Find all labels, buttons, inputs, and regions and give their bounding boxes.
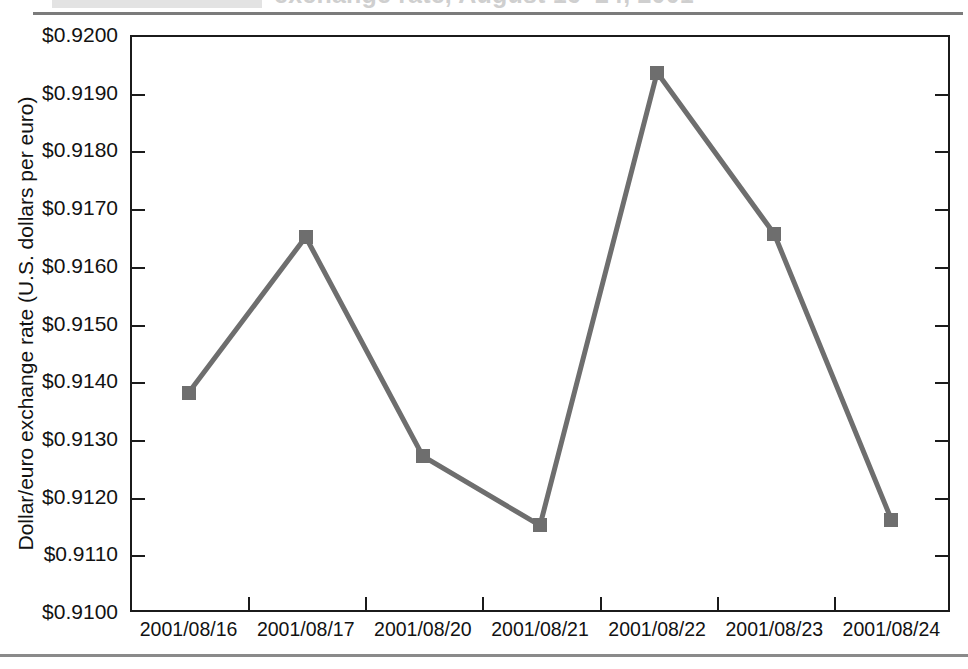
chart-page: exchange rate, August 16–24, 2001 Dollar… [0, 0, 968, 669]
y-axis-tick-labels: $0.9200$0.9190$0.9180$0.9170$0.9160$0.91… [0, 35, 124, 612]
rule-bottom [0, 654, 968, 657]
y-axis-tick-label: $0.9170 [42, 196, 118, 220]
y-axis-tick-label: $0.9150 [42, 312, 118, 336]
x-axis-tick-label: 2001/08/21 [491, 618, 589, 641]
series-polyline [189, 73, 892, 526]
y-axis-tick-label: $0.9200 [42, 23, 118, 47]
y-axis-tick-label: $0.9160 [42, 254, 118, 278]
y-axis-tick-label: $0.9140 [42, 369, 118, 393]
x-axis-tick-label: 2001/08/24 [843, 618, 941, 641]
x-axis-tick-label: 2001/08/17 [257, 618, 355, 641]
series-line [130, 35, 950, 612]
y-axis-tick-label: $0.9120 [42, 485, 118, 509]
y-axis-tick-label: $0.9100 [42, 600, 118, 624]
x-axis-tick-label: 2001/08/23 [725, 618, 823, 641]
x-axis-tick-label: 2001/08/20 [374, 618, 472, 641]
y-axis-tick-label: $0.9180 [42, 138, 118, 162]
x-axis-tick-label: 2001/08/16 [140, 618, 238, 641]
y-axis-tick-label: $0.9130 [42, 427, 118, 451]
y-axis-tick-label: $0.9190 [42, 81, 118, 105]
y-axis-tick-label: $0.9110 [44, 542, 118, 566]
x-axis-tick-label: 2001/08/22 [608, 618, 706, 641]
x-axis-tick-labels: 2001/08/162001/08/172001/08/202001/08/21… [130, 618, 950, 650]
line-chart: Dollar/euro exchange rate (U.S. dollars … [0, 0, 968, 669]
